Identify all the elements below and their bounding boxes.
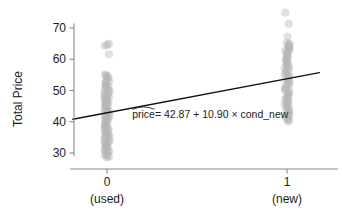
equation-expression: = 42.87 + 10.90 × cond_new — [155, 108, 289, 120]
y-tick-label: 40 — [53, 115, 67, 129]
equation-response-term: price — [132, 108, 155, 120]
x-tick-label: 0 — [104, 175, 111, 189]
x-tick-label: 1 — [284, 175, 291, 189]
data-points-layer — [100, 9, 293, 162]
y-tick-label: 30 — [53, 146, 67, 160]
y-tick-label: 70 — [53, 21, 67, 35]
data-point — [285, 20, 293, 28]
x-tick-sublabel: (used) — [90, 192, 124, 206]
data-point — [281, 9, 289, 17]
y-tick-label: 60 — [53, 52, 67, 66]
plot-canvas: 30405060700(used)1(new)Total Price price… — [0, 0, 342, 216]
data-point — [105, 50, 113, 58]
data-point — [101, 42, 109, 50]
data-point — [103, 153, 111, 161]
x-tick-sublabel: (new) — [272, 192, 302, 206]
y-axis-title: Total Price — [11, 71, 25, 127]
point-group — [100, 40, 113, 162]
y-tick-label: 50 — [53, 84, 67, 98]
equation-annotation: price = 42.87 + 10.90 × cond_new — [132, 107, 289, 120]
scatter-plot-figure: 30405060700(used)1(new)Total Price price… — [0, 0, 342, 216]
